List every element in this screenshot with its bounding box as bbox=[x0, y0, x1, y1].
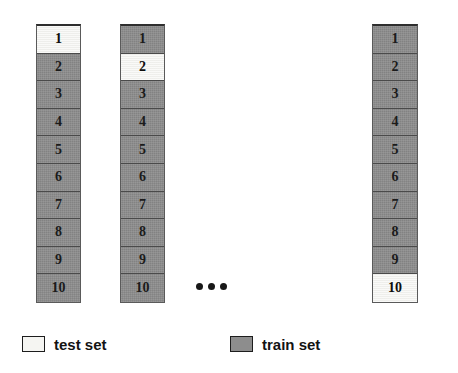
fold-cell-label: 5 bbox=[392, 143, 399, 157]
fold-cell: 10 bbox=[373, 274, 417, 302]
fold-cell-label: 1 bbox=[55, 32, 62, 46]
fold-cell: 1 bbox=[37, 26, 80, 54]
ellipsis-indicator bbox=[196, 278, 236, 294]
fold-cell: 10 bbox=[37, 274, 80, 302]
fold-cell-label: 10 bbox=[388, 281, 402, 295]
fold-cell: 4 bbox=[37, 109, 80, 137]
ellipsis-dot bbox=[220, 283, 227, 290]
fold-cell-label: 8 bbox=[139, 225, 146, 239]
fold-column-fold-2: 12345678910 bbox=[120, 24, 165, 303]
fold-cell: 9 bbox=[37, 247, 80, 275]
fold-cell: 2 bbox=[121, 54, 164, 82]
fold-cell: 5 bbox=[37, 136, 80, 164]
fold-cell-label: 5 bbox=[55, 143, 62, 157]
fold-cell-label: 4 bbox=[55, 115, 62, 129]
fold-cell-label: 6 bbox=[392, 170, 399, 184]
fold-cell-label: 9 bbox=[392, 253, 399, 267]
ellipsis-dot bbox=[196, 283, 203, 290]
fold-cell: 6 bbox=[121, 164, 164, 192]
fold-cell-label: 2 bbox=[392, 60, 399, 74]
fold-cell: 3 bbox=[37, 81, 80, 109]
fold-cell: 7 bbox=[121, 192, 164, 220]
fold-cell: 6 bbox=[37, 164, 80, 192]
fold-cell-label: 7 bbox=[139, 198, 146, 212]
legend-swatch-train-icon bbox=[230, 336, 253, 352]
fold-cell: 1 bbox=[373, 26, 417, 54]
fold-cell-label: 3 bbox=[392, 87, 399, 101]
fold-cell: 8 bbox=[37, 219, 80, 247]
fold-cell-label: 10 bbox=[52, 281, 66, 295]
fold-cell-label: 2 bbox=[55, 60, 62, 74]
fold-column-fold-1: 12345678910 bbox=[36, 24, 81, 303]
fold-cell-label: 10 bbox=[136, 281, 150, 295]
fold-cell: 7 bbox=[373, 192, 417, 220]
fold-cell: 8 bbox=[373, 219, 417, 247]
fold-cell-label: 8 bbox=[55, 225, 62, 239]
fold-cell-label: 4 bbox=[392, 115, 399, 129]
fold-cell-label: 3 bbox=[55, 87, 62, 101]
fold-column-fold-10: 12345678910 bbox=[372, 24, 418, 303]
legend-label-test: test set bbox=[54, 337, 107, 352]
ellipsis-dot bbox=[208, 283, 215, 290]
fold-cell: 6 bbox=[373, 164, 417, 192]
fold-cell: 2 bbox=[373, 54, 417, 82]
legend-swatch-test-icon bbox=[22, 336, 45, 352]
fold-cell-label: 2 bbox=[139, 60, 146, 74]
fold-cell-label: 3 bbox=[139, 87, 146, 101]
fold-cell-label: 8 bbox=[392, 225, 399, 239]
fold-cell: 1 bbox=[121, 26, 164, 54]
fold-cell: 8 bbox=[121, 219, 164, 247]
fold-cell-label: 9 bbox=[139, 253, 146, 267]
fold-cell: 7 bbox=[37, 192, 80, 220]
fold-cell-label: 1 bbox=[392, 32, 399, 46]
legend-item-train-set: train set bbox=[230, 334, 320, 354]
fold-cell: 10 bbox=[121, 274, 164, 302]
fold-cell-label: 6 bbox=[139, 170, 146, 184]
legend-label-train: train set bbox=[262, 337, 320, 352]
fold-cell: 3 bbox=[373, 81, 417, 109]
fold-cell-label: 6 bbox=[55, 170, 62, 184]
fold-cell-label: 7 bbox=[55, 198, 62, 212]
fold-cell: 4 bbox=[373, 109, 417, 137]
fold-cell: 5 bbox=[373, 136, 417, 164]
fold-cell: 4 bbox=[121, 109, 164, 137]
fold-cell: 9 bbox=[121, 247, 164, 275]
cross-validation-fold-diagram: 123456789101234567891012345678910 test s… bbox=[0, 0, 458, 373]
fold-cell: 9 bbox=[373, 247, 417, 275]
fold-cell: 5 bbox=[121, 136, 164, 164]
fold-cell-label: 4 bbox=[139, 115, 146, 129]
fold-cell-label: 1 bbox=[139, 32, 146, 46]
legend-item-test-set: test set bbox=[22, 334, 107, 354]
fold-cell-label: 9 bbox=[55, 253, 62, 267]
fold-cell: 2 bbox=[37, 54, 80, 82]
fold-cell-label: 7 bbox=[392, 198, 399, 212]
fold-cell: 3 bbox=[121, 81, 164, 109]
fold-cell-label: 5 bbox=[139, 143, 146, 157]
